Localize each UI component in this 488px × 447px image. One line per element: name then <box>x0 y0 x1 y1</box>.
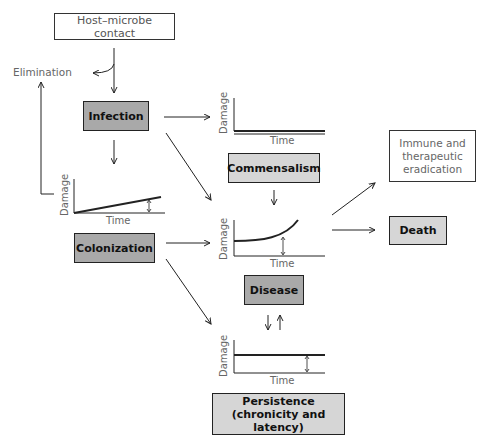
immune-eradication-box: Immune and therapeutic eradication <box>389 130 476 182</box>
elimination-label: Elimination <box>13 66 72 78</box>
colonization-x-label: Time <box>106 215 130 226</box>
immune-line1: Immune and <box>399 137 465 150</box>
disease-y-label: Damage <box>218 218 229 260</box>
commensalism-plot <box>234 98 325 134</box>
commensalism-box: Commensalism <box>228 153 320 183</box>
colonization-y-label: Damage <box>59 174 70 216</box>
commensalism-y-label: Damage <box>218 92 229 134</box>
persistence-line2: (chronicity and latency) <box>213 408 344 434</box>
commensalism-x-label: Time <box>270 135 294 146</box>
host-microbe-contact-box: Host–microbe contact <box>54 13 175 40</box>
persistence-y-label: Damage <box>218 335 229 377</box>
disease-box: Disease <box>244 275 304 305</box>
infection-box: Infection <box>83 101 149 131</box>
disease-plot <box>234 220 325 256</box>
persistence-plot <box>234 340 325 373</box>
persistence-line1: Persistence <box>242 395 314 408</box>
colonization-plot <box>74 179 165 213</box>
immune-line3: eradication <box>403 163 462 176</box>
death-box: Death <box>389 216 447 245</box>
colonization-box: Colonization <box>74 233 155 263</box>
disease-x-label: Time <box>270 258 294 269</box>
persistence-box: Persistence (chronicity and latency) <box>212 393 345 435</box>
persistence-x-label: Time <box>270 375 294 386</box>
immune-line2: therapeutic <box>402 150 463 163</box>
